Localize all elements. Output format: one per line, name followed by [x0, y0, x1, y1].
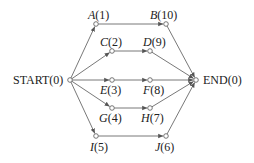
node-c: [110, 49, 115, 54]
label-value: (10): [157, 8, 177, 22]
label-value: (4): [108, 111, 122, 125]
label-text: END: [203, 73, 228, 87]
edge-j-end: [167, 82, 195, 134]
node-label-h: H(7): [141, 112, 164, 124]
node-label-i: I(5): [90, 141, 108, 153]
node-i: [94, 134, 99, 139]
node-start: [68, 78, 73, 83]
node-a: [94, 22, 99, 27]
node-label-c: C(2): [100, 36, 122, 48]
label-value: (5): [94, 140, 108, 154]
node-label-e: E(3): [100, 84, 121, 96]
label-text: H: [141, 111, 150, 125]
edge-b-end: [167, 26, 195, 78]
label-value: (9): [152, 35, 166, 49]
node-label-a: A(1): [88, 9, 109, 21]
label-value: (0): [228, 73, 242, 87]
node-label-g: G(4): [99, 112, 122, 124]
node-label-f: F(8): [143, 84, 164, 96]
label-text: D: [143, 35, 152, 49]
node-h: [148, 106, 153, 111]
node-label-d: D(9): [143, 36, 166, 48]
node-e: [110, 78, 115, 83]
edge-start-i: [71, 82, 95, 133]
label-value: (0): [49, 73, 63, 87]
label-text: C: [100, 35, 108, 49]
label-value: (8): [150, 83, 164, 97]
label-value: (6): [160, 140, 174, 154]
node-j: [164, 134, 169, 139]
label-text: START: [13, 73, 49, 87]
edge-d-end: [152, 52, 194, 78]
node-g: [110, 106, 115, 111]
node-label-start: START(0): [13, 74, 63, 86]
node-d: [148, 49, 153, 54]
edge-start-a: [71, 27, 95, 78]
label-value: (7): [150, 111, 164, 125]
label-value: (3): [107, 83, 121, 97]
node-f: [148, 78, 153, 83]
node-label-end: END(0): [203, 74, 242, 86]
network-diagram: START(0) A(1) B(10) C(2) D(9) E(3) F(8) …: [0, 0, 254, 163]
edges: [71, 24, 195, 136]
node-b: [164, 22, 169, 27]
node-label-b: B(10): [150, 9, 177, 21]
node-end: [194, 78, 199, 83]
label-text: G: [99, 111, 108, 125]
label-value: (1): [95, 8, 109, 22]
label-value: (2): [108, 35, 122, 49]
edge-start-c: [72, 53, 110, 79]
node-label-j: J(6): [155, 141, 174, 153]
